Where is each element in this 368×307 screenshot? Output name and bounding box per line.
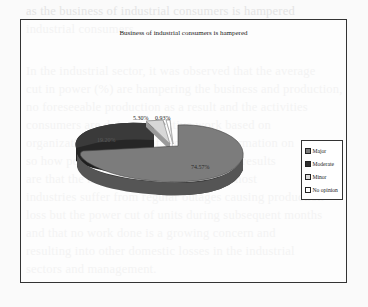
legend-swatch-icon: [305, 161, 311, 167]
legend-item-no-opinion: No opinion: [305, 183, 342, 196]
data-label-moderate: 19.20%: [97, 137, 116, 143]
legend-swatch-icon: [305, 187, 311, 193]
data-label-no-opinion: 0.93%: [155, 115, 171, 121]
legend-swatch-icon: [305, 174, 311, 180]
pie-chart-3d: [21, 20, 346, 282]
legend-label: Minor: [313, 174, 327, 180]
legend-label: Moderate: [313, 161, 334, 167]
page: as the business of industrial consumers …: [0, 0, 368, 307]
data-label-major: 74.57%: [191, 164, 210, 170]
data-label-minor: 5.30%: [133, 115, 149, 121]
legend-item-minor: Minor: [305, 170, 342, 183]
legend-label: Major: [313, 148, 327, 154]
legend-label: No opinion: [313, 187, 338, 193]
chart-legend: Major Moderate Minor No opinion: [301, 140, 343, 200]
legend-item-major: Major: [305, 144, 342, 157]
legend-swatch-icon: [305, 148, 311, 154]
chart-frame: Business of industrial consumers is hamp…: [20, 19, 347, 283]
legend-item-moderate: Moderate: [305, 157, 342, 170]
background-text-line: as the business of industrial consumers …: [26, 2, 362, 20]
